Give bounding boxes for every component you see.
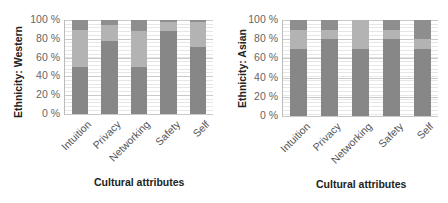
- bar-segment-top: [290, 20, 307, 30]
- bar-privacy: [101, 20, 117, 114]
- bar-segment-bottom: [160, 31, 176, 114]
- bar-privacy: [321, 20, 338, 116]
- bar-segment-bottom: [190, 47, 206, 114]
- bar-segment-bottom: [383, 39, 400, 116]
- x-axis-title: Cultural attributes: [94, 176, 184, 188]
- y-tick-label: 20 %: [22, 88, 60, 100]
- chart-western: Ethnicity: Western 0 %20 %40 %60 %80 %10…: [0, 0, 224, 203]
- gridline: [65, 114, 213, 115]
- y-tick-label: 100 %: [22, 13, 60, 25]
- bar-segment-top: [72, 20, 88, 30]
- y-tick-label: 80 %: [22, 32, 60, 44]
- bar-segment-bottom: [352, 49, 369, 116]
- bar-segment-top: [321, 20, 338, 30]
- bar-segment-bottom: [72, 67, 88, 114]
- x-tick-label: Safety: [153, 118, 183, 148]
- bar-segment-middle: [131, 31, 147, 67]
- bar-segment-bottom: [414, 49, 431, 116]
- bar-segment-middle: [383, 30, 400, 40]
- y-tick-label: 60 %: [240, 51, 278, 63]
- x-tick-label: Intuition: [277, 120, 311, 154]
- plot-area: [64, 20, 213, 115]
- bar-segment-top: [383, 20, 400, 30]
- bar-segment-bottom: [290, 49, 307, 116]
- y-tick-label: 100 %: [240, 13, 278, 25]
- bar-segment-bottom: [101, 41, 117, 114]
- y-tick-label: 40 %: [22, 69, 60, 81]
- bar-segment-bottom: [131, 67, 147, 114]
- y-tick-label: 0 %: [240, 109, 278, 121]
- gridline: [283, 116, 438, 117]
- bar-intuition: [290, 20, 307, 116]
- bar-segment-middle: [160, 22, 176, 31]
- bar-segment-middle: [190, 22, 206, 47]
- bar-segment-top: [131, 20, 147, 31]
- bar-segment-middle: [352, 20, 369, 49]
- bar-self: [414, 20, 431, 116]
- plot-area: [282, 20, 438, 117]
- bar-segment-middle: [101, 25, 117, 41]
- bar-segment-middle: [290, 30, 307, 49]
- bar-safety: [383, 20, 400, 116]
- bar-segment-middle: [321, 30, 338, 40]
- y-tick-label: 40 %: [240, 71, 278, 83]
- x-tick-label: Self: [415, 120, 436, 141]
- x-tick-label: Safety: [375, 120, 405, 150]
- bar-networking: [352, 20, 369, 116]
- bar-networking: [131, 20, 147, 114]
- y-tick-label: 20 %: [240, 90, 278, 102]
- chart-asian: Ethnicity: Asian 0 %20 %40 %60 %80 %100 …: [224, 0, 448, 203]
- y-tick-label: 80 %: [240, 32, 278, 44]
- x-tick-label: Self: [190, 118, 211, 139]
- x-tick-label: Intuition: [59, 118, 93, 152]
- bar-segment-top: [414, 20, 431, 39]
- bar-self: [190, 20, 206, 114]
- y-tick-label: 0 %: [22, 107, 60, 119]
- bar-intuition: [72, 20, 88, 114]
- x-axis-title: Cultural attributes: [316, 178, 406, 190]
- bar-segment-middle: [72, 30, 88, 67]
- bar-safety: [160, 20, 176, 114]
- y-tick-label: 60 %: [22, 51, 60, 63]
- bar-segment-bottom: [321, 39, 338, 116]
- bar-segment-middle: [414, 39, 431, 49]
